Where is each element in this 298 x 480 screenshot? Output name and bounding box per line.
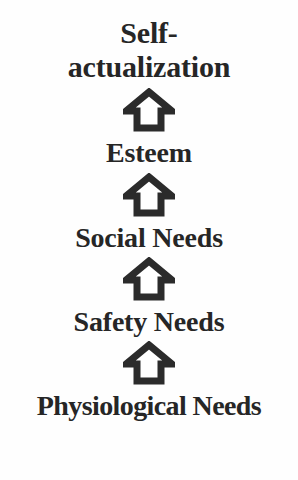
level-label-self-actualization: Self- actualization (0, 16, 298, 83)
level-label-safety-needs: Safety Needs (0, 307, 298, 336)
level-label-esteem: Esteem (0, 138, 298, 167)
level-label-social-needs: Social Needs (0, 223, 298, 252)
level-label-self-actualization-line2: actualization (68, 50, 230, 83)
level-label-physiological-needs: Physiological Needs (0, 391, 298, 420)
up-arrow-outline-icon (123, 88, 175, 132)
up-arrow-outline-icon (123, 341, 175, 385)
maslow-hierarchy-diagram: Self- actualization Esteem Social Needs … (0, 0, 298, 480)
up-arrow-outline-icon (123, 173, 175, 217)
up-arrow-outline-icon (123, 257, 175, 301)
level-label-self-actualization-line1: Self- (120, 16, 177, 49)
